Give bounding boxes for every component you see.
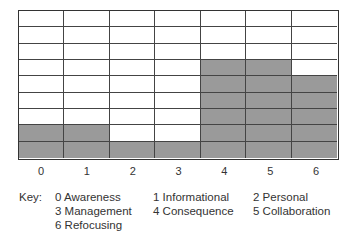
grid-cell (246, 142, 291, 158)
key-item-0: 0 Awareness (55, 190, 121, 204)
x-tick-label: 1 (64, 165, 110, 177)
bar-grid (18, 10, 339, 160)
x-tick-label: 5 (247, 165, 293, 177)
x-tick-label: 6 (293, 165, 339, 177)
grid-cell (155, 60, 200, 76)
grid-cell (201, 93, 246, 109)
grid-cell (292, 109, 337, 125)
grid-cell (155, 44, 200, 60)
grid-cell (19, 44, 64, 60)
key-label: Key: (19, 190, 42, 204)
grid-cell (19, 11, 64, 27)
grid-cell (155, 27, 200, 43)
grid-cell (292, 44, 337, 60)
grid-cell (246, 76, 291, 92)
grid-cell (292, 27, 337, 43)
grid-cell (292, 125, 337, 141)
grid-cell (155, 125, 200, 141)
grid-cell (201, 27, 246, 43)
grid-cell (64, 125, 109, 141)
grid-cell (64, 44, 109, 60)
grid-cell (155, 93, 200, 109)
key-item-4: 4 Consequence (153, 204, 234, 218)
grid-cell (292, 93, 337, 109)
key-item-3: 3 Management (55, 204, 132, 218)
key-item-1: 1 Informational (153, 190, 229, 204)
grid-cell (110, 76, 155, 92)
grid-cell (110, 109, 155, 125)
grid-cell (19, 142, 64, 158)
key-item-5: 5 Collaboration (253, 204, 330, 218)
grid-cell (201, 44, 246, 60)
grid-cell (292, 11, 337, 27)
grid-cell (19, 60, 64, 76)
grid-cell (110, 11, 155, 27)
grid-cell (201, 76, 246, 92)
grid-cell (155, 11, 200, 27)
grid-cell (64, 109, 109, 125)
key-item-2: 2 Personal (253, 190, 308, 204)
grid-cell (201, 11, 246, 27)
grid-cell (246, 44, 291, 60)
grid-cell (292, 76, 337, 92)
key-item-6: 6 Refocusing (55, 218, 122, 232)
grid-cell (110, 44, 155, 60)
grid-cell (19, 93, 64, 109)
grid-cell (110, 125, 155, 141)
grid-cell (292, 142, 337, 158)
grid-cell (201, 109, 246, 125)
grid-cell (246, 109, 291, 125)
grid-cell (155, 142, 200, 158)
grid-cell (246, 93, 291, 109)
grid-cell (19, 27, 64, 43)
grid-cell (64, 93, 109, 109)
grid-cell (64, 60, 109, 76)
grid-cell (64, 142, 109, 158)
grid-cell (110, 60, 155, 76)
x-tick-label: 4 (201, 165, 247, 177)
grid-cell (64, 76, 109, 92)
grid-cell (19, 76, 64, 92)
grid-cell (201, 60, 246, 76)
grid-cell (19, 109, 64, 125)
grid-cell (292, 60, 337, 76)
grid-cell (110, 93, 155, 109)
grid-cell (155, 76, 200, 92)
x-tick-label: 3 (156, 165, 202, 177)
grid-cell (155, 109, 200, 125)
grid-cell (246, 11, 291, 27)
grid-cell (110, 142, 155, 158)
grid-cell (246, 60, 291, 76)
grid-cell (110, 27, 155, 43)
grid-cell (246, 125, 291, 141)
grid-cell (246, 27, 291, 43)
x-tick-label: 0 (18, 165, 64, 177)
grid-cell (201, 125, 246, 141)
grid-cell (64, 11, 109, 27)
grid-cell (201, 142, 246, 158)
x-tick-label: 2 (110, 165, 156, 177)
grid-cell (64, 27, 109, 43)
grid-cell (19, 125, 64, 141)
